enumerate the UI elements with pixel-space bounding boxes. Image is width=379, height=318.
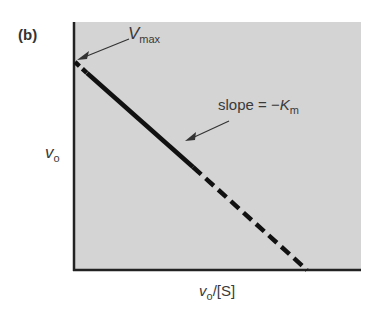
extrapolation-lower [193,167,307,270]
data-line-solid [87,73,193,167]
slope-sub: m [290,104,299,116]
slope-label: slope = −Km [218,96,299,113]
vmax-arrowhead [77,51,89,60]
x-axis-label: vo/[S] [199,282,235,299]
vmax-main: V [128,24,139,43]
vmax-sub: max [139,33,160,45]
y-axis-label: vo [45,143,60,163]
x-label-main: v [199,282,207,299]
vmax-arrow [82,39,129,58]
y-label-sub: o [54,152,60,164]
slope-main: K [280,96,290,113]
slope-arrow [190,121,229,139]
x-label-sub: o [207,290,213,302]
slope-arrowhead [185,132,196,141]
y-label-main: v [45,143,54,162]
slope-prefix: slope = − [218,96,280,113]
x-label-suffix: /[S] [213,282,236,299]
extrapolation-upper [75,62,87,73]
vmax-label: Vmax [128,24,160,44]
